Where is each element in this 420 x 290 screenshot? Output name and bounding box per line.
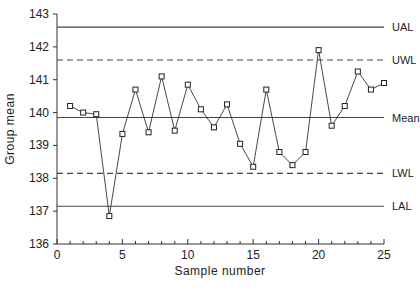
y-tick-label: 140 xyxy=(29,106,49,120)
data-point-marker xyxy=(133,87,138,92)
data-point-marker xyxy=(159,74,164,79)
ref-label-mean: Mean xyxy=(392,112,420,124)
data-point-marker xyxy=(225,102,230,107)
data-point-marker xyxy=(303,150,308,155)
ref-label-lal: LAL xyxy=(392,200,412,212)
y-tick-label: 143 xyxy=(29,7,49,21)
axes: 1361371381391401411421430510152025 xyxy=(29,7,391,262)
data-point-marker xyxy=(172,128,177,133)
data-point-marker xyxy=(329,123,334,128)
y-tick-label: 136 xyxy=(29,237,49,251)
y-tick-label: 141 xyxy=(29,73,49,87)
data-point-marker xyxy=(81,110,86,115)
ref-label-lwl: LWL xyxy=(392,167,414,179)
data-point-marker xyxy=(211,125,216,130)
data-point-marker xyxy=(68,104,73,109)
data-point-marker xyxy=(264,87,269,92)
data-point-marker xyxy=(290,163,295,168)
data-point-marker xyxy=(368,87,373,92)
reference-lines: UALUWLMeanLWLLAL xyxy=(57,21,420,212)
data-point-marker xyxy=(146,130,151,135)
y-tick-label: 137 xyxy=(29,204,49,218)
data-point-marker xyxy=(107,214,112,219)
data-point-marker xyxy=(355,69,360,74)
series-line xyxy=(70,50,384,216)
x-tick-label: 0 xyxy=(54,248,61,262)
x-axis-title: Sample number xyxy=(174,264,265,278)
data-point-marker xyxy=(198,107,203,112)
y-tick-label: 139 xyxy=(29,138,49,152)
data-point-marker xyxy=(251,164,256,169)
data-point-marker xyxy=(382,81,387,86)
data-series xyxy=(68,48,387,219)
data-point-marker xyxy=(185,82,190,87)
data-point-marker xyxy=(120,131,125,136)
control-chart: 1361371381391401411421430510152025 UALUW… xyxy=(0,0,420,290)
x-tick-label: 15 xyxy=(247,248,261,262)
ref-label-ual: UAL xyxy=(392,21,413,33)
data-point-marker xyxy=(316,48,321,53)
data-point-marker xyxy=(277,150,282,155)
data-point-marker xyxy=(238,141,243,146)
x-tick-label: 10 xyxy=(181,248,195,262)
data-point-marker xyxy=(94,112,99,117)
x-tick-label: 20 xyxy=(312,248,326,262)
x-tick-label: 5 xyxy=(119,248,126,262)
x-tick-label: 25 xyxy=(377,248,391,262)
y-tick-label: 138 xyxy=(29,171,49,185)
y-axis-title: Group mean xyxy=(3,93,17,165)
data-point-marker xyxy=(342,104,347,109)
y-tick-label: 142 xyxy=(29,40,49,54)
ref-label-uwl: UWL xyxy=(392,54,416,66)
